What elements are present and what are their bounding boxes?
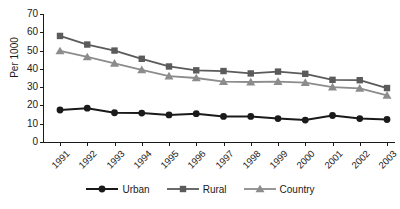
legend-label: Urban (122, 184, 149, 195)
legend-label: Rural (203, 184, 227, 195)
legend-item-country[interactable]: Country (243, 183, 315, 195)
legend-item-urban[interactable]: Urban (85, 183, 149, 195)
legend-square-icon (166, 183, 200, 195)
x-axis-tick-labels: 1991199219931994199519961997199819992000… (0, 0, 400, 209)
line-chart-figure: Per 1000 706050403020100 199119921993199… (0, 0, 400, 209)
legend-triangle-icon (243, 183, 277, 195)
legend-label: Country (280, 184, 315, 195)
legend-item-rural[interactable]: Rural (166, 183, 227, 195)
chart-legend: UrbanRuralCountry (0, 183, 400, 195)
legend-circle-icon (85, 183, 119, 195)
